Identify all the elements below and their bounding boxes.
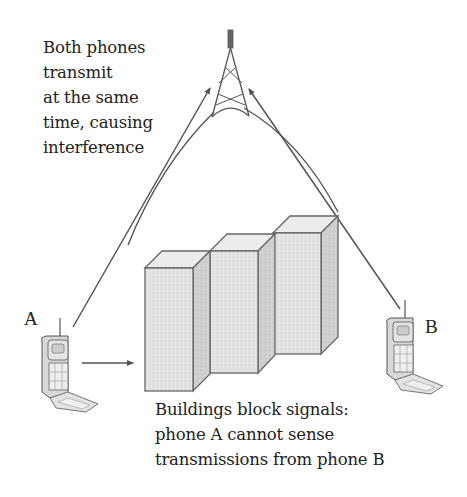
diagram-canvas: Both phones transmit at the same time, c… — [0, 0, 467, 497]
caption-line: transmissions from phone B — [155, 447, 384, 472]
phone-a-icon — [42, 318, 99, 412]
buildings-icon — [145, 216, 338, 391]
phone-a-label: A — [24, 308, 38, 330]
interference-caption: Both phones transmit at the same time, c… — [43, 35, 153, 160]
caption-line: at the same — [43, 85, 153, 110]
caption-line: time, causing — [43, 110, 153, 135]
signal-curve-right — [244, 108, 338, 212]
caption-line: Both phones — [43, 35, 153, 60]
phone-b-icon — [387, 300, 444, 394]
cell-tower-icon — [212, 30, 249, 117]
caption-line: transmit — [43, 60, 153, 85]
phone-b-label: B — [425, 316, 438, 338]
buildings-caption: Buildings block signals: phone A cannot … — [155, 397, 384, 472]
caption-line: phone A cannot sense — [155, 422, 384, 447]
caption-line: Buildings block signals: — [155, 397, 384, 422]
caption-line: interference — [43, 135, 153, 160]
